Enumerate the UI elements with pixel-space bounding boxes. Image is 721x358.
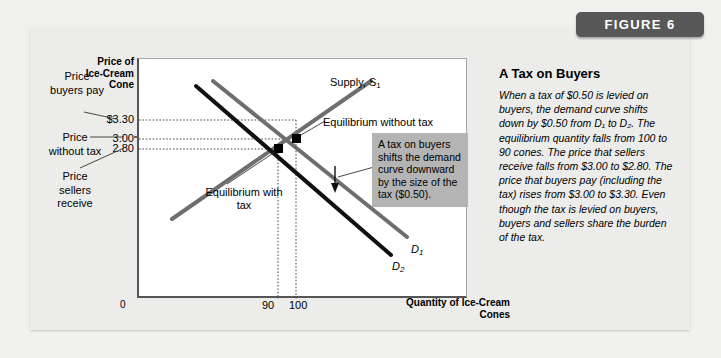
origin-label: 0 [120,299,126,310]
x-axis-title: Quantity of Ice-Cream Cones [385,297,510,320]
demand-curve-2-label-subscript: 2 [400,265,404,274]
figure-number-badge: FIGURE 6 [576,12,704,37]
supply-curve-label: Supply, S1 [330,76,381,92]
label-price-buyers-pay: Price buyers pay [48,70,106,97]
caption-body: When a tax of $0.50 is levied on buyers,… [499,88,675,244]
supply-curve-label-subscript: 1 [376,81,380,90]
equilibrium-without-tax-label: Equilibrium without tax [323,116,433,129]
demand-curve-1-label-text: D [411,243,419,255]
leader-callout [338,167,374,177]
x-tick-100: 100 [289,299,307,311]
demand-curve-2-label: D2 [392,260,404,276]
equilibrium-point-with-tax [274,144,283,153]
equilibrium-point-without-tax [292,134,301,143]
shift-arrow-head [331,183,339,193]
callout-box: A tax on buyers shifts the demand curve … [372,133,468,207]
label-price-without-tax: Price without tax [44,131,106,158]
equilibrium-with-tax-label: Equilibrium with tax [204,186,284,212]
supply-curve-label-text: Supply, S [330,76,376,88]
figure-number-label: FIGURE 6 [604,17,675,32]
caption-column: A Tax on Buyers When a tax of $0.50 is l… [499,66,675,244]
demand-curve-1-label: D1 [411,243,423,259]
demand-curve-1-label-subscript: 1 [419,248,423,257]
demand-curve-2-label-text: D [392,260,400,272]
label-price-sellers-receive: Price sellers receive [46,170,104,211]
leader-equilibrium-with-tax [227,152,275,184]
y-tick-330: $3.30 [82,113,134,125]
caption-title: A Tax on Buyers [499,66,675,81]
x-tick-90: 90 [262,299,274,311]
